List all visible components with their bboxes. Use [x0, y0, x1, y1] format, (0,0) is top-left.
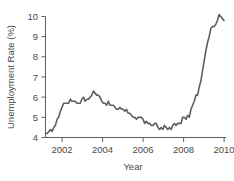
y-tick-label-7: 7 — [33, 72, 38, 83]
x-axis-title: Year — [123, 161, 142, 172]
x-tick-label-2006: 2006 — [133, 144, 154, 155]
chart-canvas: 10 9 8 7 6 5 4 2002 2004 2006 2008 2010 … — [0, 0, 234, 181]
x-tick-labels: 2002 2004 2006 2008 2010 — [52, 144, 234, 155]
y-tick-marks — [42, 17, 46, 138]
unemployment-rate-line — [46, 14, 225, 133]
x-tick-marks — [62, 138, 224, 143]
y-tick-label-6: 6 — [33, 92, 38, 103]
x-tick-label-2010: 2010 — [214, 144, 234, 155]
y-tick-label-9: 9 — [33, 31, 38, 42]
unemployment-rate-chart: 10 9 8 7 6 5 4 2002 2004 2006 2008 2010 … — [0, 0, 234, 181]
y-tick-label-4: 4 — [33, 132, 38, 143]
y-tick-label-8: 8 — [33, 51, 38, 62]
y-tick-label-5: 5 — [33, 112, 38, 123]
y-tick-label-10: 10 — [27, 11, 38, 22]
y-tick-labels: 10 9 8 7 6 5 4 — [27, 11, 38, 143]
x-tick-label-2004: 2004 — [92, 144, 113, 155]
x-tick-label-2002: 2002 — [52, 144, 73, 155]
x-tick-label-2008: 2008 — [173, 144, 194, 155]
y-axis-title: Unemployment Rate (%) — [5, 25, 16, 129]
